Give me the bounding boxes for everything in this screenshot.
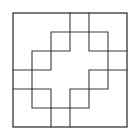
figure-canvas xyxy=(0,0,140,137)
cross-tiling-diagram xyxy=(0,0,140,137)
